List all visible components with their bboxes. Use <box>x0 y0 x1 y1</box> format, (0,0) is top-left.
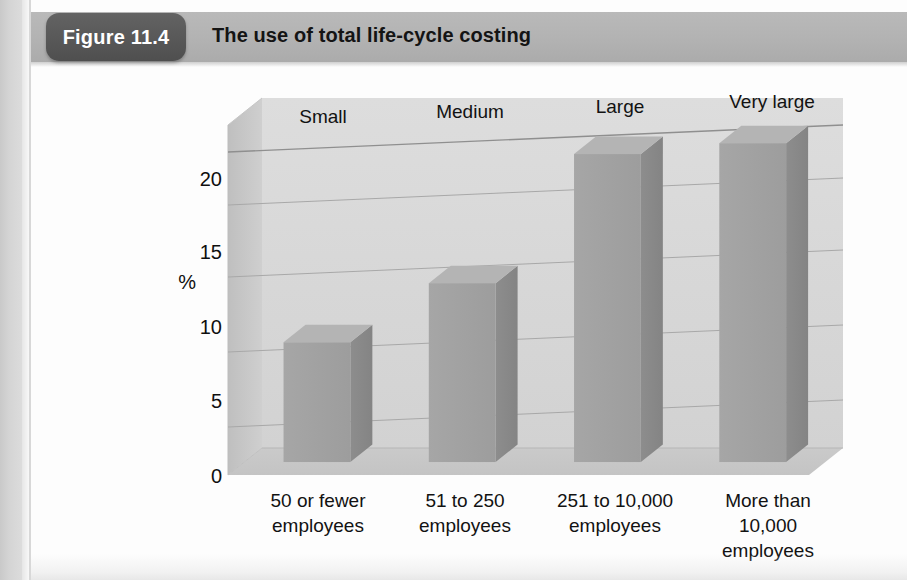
x-category-label-3-line-0: More than <box>673 488 863 513</box>
bar-3-side-face <box>786 126 808 462</box>
ytick-label-15: 15 <box>186 241 222 264</box>
figure-page: Figure 11.4 The use of total life-cycle … <box>0 0 907 580</box>
bar-3-front-face <box>719 143 786 462</box>
bar-2-front-face <box>574 154 641 462</box>
ytick-label-0: 0 <box>186 465 222 488</box>
bar-0-side-face <box>350 325 372 462</box>
plot-left-wall <box>228 98 262 475</box>
ytick-label-20: 20 <box>186 168 222 191</box>
bar-chart: Small Medium Large Very large 20 15 10 5… <box>0 0 907 580</box>
ytick-label-5: 5 <box>186 390 222 413</box>
bar-0-front-face <box>284 342 351 462</box>
bar-1-side-face <box>496 266 518 462</box>
page-bottom-shadow <box>31 554 907 580</box>
x-category-label-3: More than 10,000 employees <box>673 488 863 563</box>
bar-3 <box>719 126 808 462</box>
x-category-label-3-line-1: 10,000 <box>673 513 863 538</box>
category-header-2: Large <box>596 96 645 118</box>
bar-2-side-face <box>641 137 663 462</box>
bar-1 <box>429 266 518 462</box>
bar-0 <box>284 325 373 462</box>
category-header-0: Small <box>299 106 347 128</box>
y-axis-title: % <box>178 271 196 294</box>
bar-1-front-face <box>429 283 496 462</box>
bar-2 <box>574 137 663 462</box>
category-header-3: Very large <box>729 91 815 113</box>
category-header-1: Medium <box>436 101 504 123</box>
ytick-label-10: 10 <box>186 316 222 339</box>
